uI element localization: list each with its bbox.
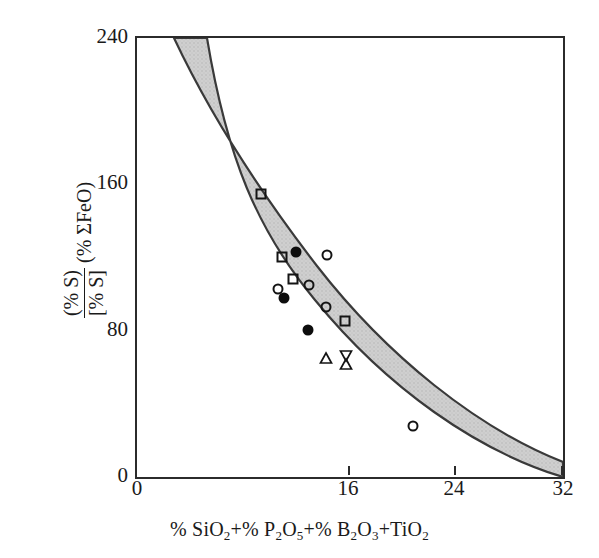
y-tick-label-0: 0 [84,465,128,486]
y-tick-label-80: 80 [84,319,128,340]
data-point-filled-circle [291,247,302,258]
data-point-filled-circle [279,293,290,304]
data-point-open-circle [408,421,419,432]
data-point-filled-circle [303,325,314,336]
y-axis-title-denominator: [% S] [84,268,107,318]
x-tick-label-32: 32 [553,478,574,499]
data-point-open-square [340,316,351,327]
shaded-band [137,38,563,477]
x-axis-title: % SiO2+% P2O5+% B2O3+TiO2 [0,516,599,549]
x-tick-label-24: 24 [444,478,465,499]
x-tick-16 [348,466,350,475]
y-axis-title-fraction: (% S) [% S] [61,268,106,318]
y-axis-title-numerator: (% S) [61,268,83,318]
plot-area [135,36,565,479]
data-point-open-circle [273,284,284,295]
data-point-open-square [277,252,288,263]
data-point-open-circle [304,280,315,291]
y-tick-label-160: 160 [84,172,128,193]
data-point-open-square [288,274,299,285]
data-point-open-circle [322,250,333,261]
x-tick-24 [454,466,456,475]
data-point-open-triangle-up [320,352,333,364]
data-point-open-square [256,189,267,200]
data-point-open-circle [321,302,332,313]
x-tick-0 [135,466,137,475]
chart-figure: (% S) [% S] (% ΣFeO) 240 160 80 0 [0,0,599,558]
x-tick-label-0: 0 [132,478,143,499]
y-tick-label-240: 240 [84,26,128,47]
data-point-open-triangle-up [340,358,353,370]
x-tick-label-16: 16 [338,478,359,499]
x-tick-32 [561,466,563,475]
y-axis-title-suffix: (% ΣFeO) [73,182,96,263]
